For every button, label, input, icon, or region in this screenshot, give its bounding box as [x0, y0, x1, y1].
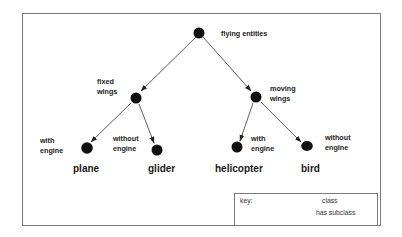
label-bird-qualifier: without engine: [325, 133, 351, 152]
legend-title: key:: [240, 197, 252, 204]
label-line: without: [325, 133, 351, 143]
node-fixed-wings: [131, 93, 142, 104]
node-moving-wings: [251, 92, 262, 103]
label-line: engine: [251, 144, 274, 154]
legend-box: [234, 193, 378, 226]
leaf-name-helicopter: helicopter: [215, 163, 263, 174]
label-line: fixed: [97, 77, 117, 87]
label-fixed-wings: fixed wings: [97, 77, 117, 96]
edge-root-moving-wings: [203, 37, 251, 91]
node-flying-entities: [194, 28, 205, 39]
label-flying-entities: flying entities: [221, 29, 267, 39]
label-line: engine: [113, 144, 139, 154]
node-helicopter: [232, 142, 243, 153]
label-line: engine: [40, 146, 63, 156]
label-glider-qualifier: without engine: [113, 134, 139, 153]
label-text: flying entities: [221, 29, 267, 38]
leaf-name-glider: glider: [148, 163, 175, 174]
leaf-name-bird: bird: [301, 163, 320, 174]
label-line: with: [251, 134, 274, 144]
label-line: moving: [270, 84, 296, 94]
label-line: wings: [270, 94, 296, 104]
label-line: with: [40, 136, 63, 146]
edge-root-fixed-wings: [141, 37, 196, 91]
label-plane-qualifier: with engine: [40, 136, 63, 155]
label-line: wings: [97, 87, 117, 97]
node-glider: [152, 145, 163, 156]
legend-class-label: class: [322, 197, 338, 204]
leaf-name-plane: plane: [73, 163, 99, 174]
node-plane: [81, 142, 93, 154]
legend-subclass-label: has subclass: [316, 209, 355, 216]
label-line: without: [113, 134, 139, 144]
label-moving-wings: moving wings: [270, 84, 296, 103]
node-bird: [301, 141, 313, 151]
label-line: engine: [325, 143, 351, 153]
label-helicopter-qualifier: with engine: [251, 134, 274, 153]
edge-fixed-wings-glider: [139, 104, 154, 143]
